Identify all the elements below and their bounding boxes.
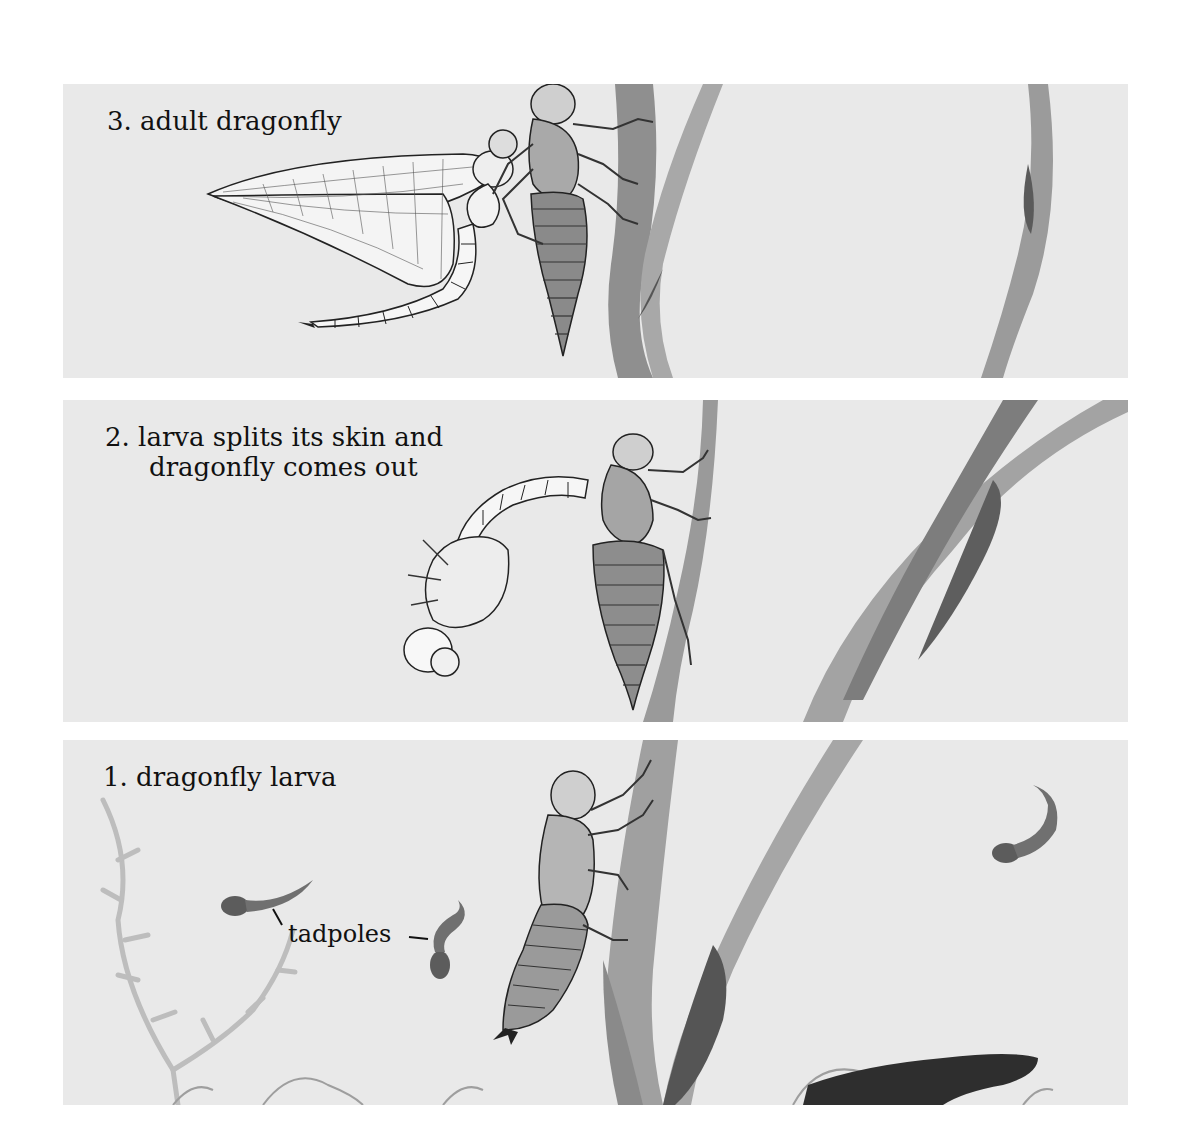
reed-leaf-right [981,84,1053,378]
panel-3-label: 3. adult dragonfly [107,106,342,136]
larva-thorax [539,815,594,917]
panel-emergence: 2. larva splits its skin and dragonfly c… [63,400,1128,722]
hindwing [213,194,454,287]
reed-dark-shadow [663,945,726,1105]
panel-2-label-line1: 2. larva splits its skin and [105,422,443,452]
dark-log [803,1054,1038,1105]
tadpole-left [221,880,313,916]
emerging-thorax [426,537,509,628]
tadpoles-label: tadpoles [288,920,391,948]
panel-adult-dragonfly: 3. adult dragonfly [63,84,1128,378]
panel-larva: 1. dragonfly larva tadpoles [63,740,1128,1105]
reed-leaf-dark [843,400,1038,700]
water-weed [103,800,295,1105]
larva-skin-abdomen [531,192,587,356]
tadpole-leader-left [273,909,282,925]
panel-2-label-line2: dragonfly comes out [149,452,418,482]
panel-1-label: 1. dragonfly larva [103,762,336,792]
tadpole-leader-right [409,937,428,939]
larva-head [613,434,653,470]
tadpole-middle [430,900,465,979]
tadpole-right [992,785,1057,863]
larva-head [551,771,595,819]
larva-illustration [63,740,1128,1105]
larva-head [531,84,575,124]
